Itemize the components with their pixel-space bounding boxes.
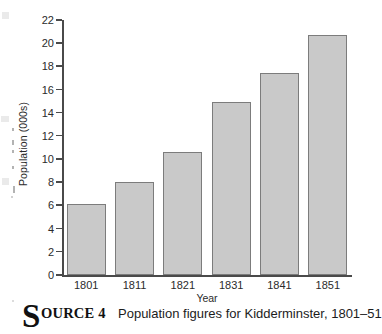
y-tick-label: 4 (24, 223, 54, 235)
x-tick-label: 1801 (62, 278, 110, 292)
bar (260, 73, 299, 275)
bar-column (260, 20, 299, 275)
y-tick-label: 18 (24, 60, 54, 72)
bar-chart: Population (000s) 0246810121416182022 18… (0, 0, 356, 300)
bar (163, 152, 202, 275)
y-tick-label: 2 (24, 246, 54, 258)
y-tick-label: 14 (24, 107, 54, 119)
y-tick-label: 22 (24, 14, 54, 26)
bar-column (212, 20, 251, 275)
y-tick-label: 12 (24, 130, 54, 142)
bar (308, 35, 347, 275)
bar (67, 204, 106, 275)
caption-dropcap: S (22, 300, 40, 333)
plot-area: 0246810121416182022 (62, 20, 352, 275)
figure-caption: S OURCE 4 Population figures for Kidderm… (22, 303, 356, 334)
y-tick-label: 0 (24, 269, 54, 281)
y-tick-label: 10 (24, 153, 54, 165)
bar (115, 182, 154, 275)
x-axis-line (62, 275, 352, 277)
x-tick-label: 1821 (159, 278, 207, 292)
caption-source-label: OURCE 4 (41, 305, 106, 321)
bar-series (62, 20, 352, 275)
caption-text: Population figures for Kidderminster, 18… (118, 306, 382, 322)
y-tick-label: 16 (24, 84, 54, 96)
bar-column (67, 20, 106, 275)
bar-column (163, 20, 202, 275)
y-tick-label: 6 (24, 199, 54, 211)
y-tick-label: 20 (24, 37, 54, 49)
bar (212, 102, 251, 275)
x-tick-label: 1841 (255, 278, 303, 292)
x-tick-label: 1851 (304, 278, 352, 292)
bar-column (115, 20, 154, 275)
scan-speck (12, 300, 14, 302)
x-tick-label: 1831 (207, 278, 255, 292)
y-tick-label: 8 (24, 176, 54, 188)
bar-column (308, 20, 347, 275)
x-tick-label: 1811 (110, 278, 158, 292)
